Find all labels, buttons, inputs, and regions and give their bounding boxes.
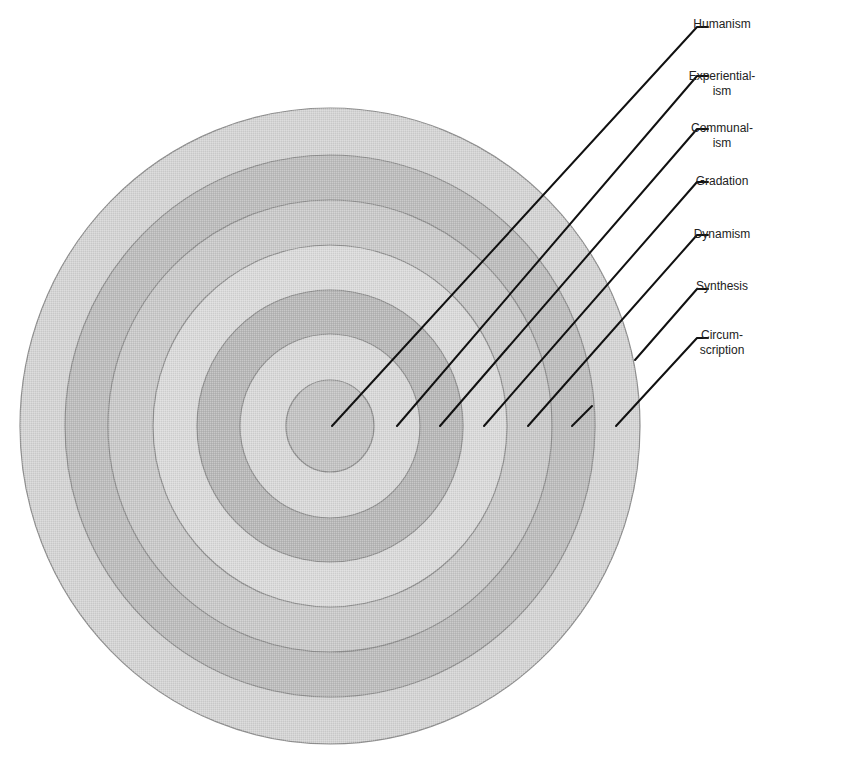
label-experientialism-line-2: ism [677,84,767,99]
label-humanism-line-1: Humanism [677,17,767,32]
label-circumscription: Circum- scription [677,328,767,358]
concentric-layers-diagram [0,0,845,774]
texture-overlay [20,108,640,744]
label-synthesis-line-1: Synthesis [677,279,767,294]
label-dynamism: Dynamism [677,227,767,242]
label-circumscription-line-1: Circum- [677,328,767,343]
label-experientialism: Experiential- ism [677,69,767,99]
label-circumscription-line-2: scription [677,343,767,358]
label-communalism-line-1: Communal- [677,121,767,136]
label-communalism-line-2: ism [677,136,767,151]
label-experientialism-line-1: Experiential- [677,69,767,84]
label-humanism: Humanism [677,17,767,32]
grain-texture [20,108,640,744]
label-dynamism-line-1: Dynamism [677,227,767,242]
label-communalism: Communal- ism [677,121,767,151]
label-gradation: Gradation [677,174,767,189]
label-gradation-line-1: Gradation [677,174,767,189]
label-synthesis: Synthesis [677,279,767,294]
